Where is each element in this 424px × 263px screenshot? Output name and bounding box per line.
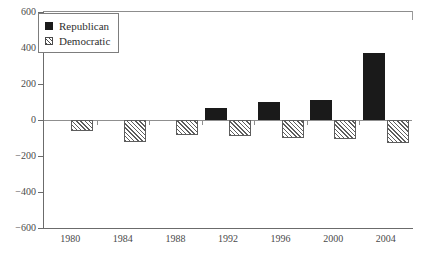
bar-republican [310, 100, 332, 120]
legend-label-republican: Republican [59, 20, 109, 32]
legend-item-democratic: Democratic [45, 33, 110, 48]
x-axis-tick-label: 1980 [45, 233, 95, 244]
zero-line-tick [254, 120, 255, 125]
y-axis-tick [38, 228, 44, 229]
x-axis-tick-label: 2000 [308, 233, 358, 244]
x-axis-tick-label: 1992 [203, 233, 253, 244]
y-axis-tick-label: −200 [2, 151, 36, 161]
legend-item-republican: Republican [45, 18, 110, 33]
y-axis-tick-label: −600 [2, 223, 36, 233]
zero-line-tick [307, 120, 308, 125]
bar-democratic [124, 120, 146, 142]
bar-republican [258, 102, 280, 120]
zero-line-tick [149, 120, 150, 125]
bar-democratic [334, 120, 356, 139]
x-axis-tick-label: 1996 [256, 233, 306, 244]
legend-swatch-republican-icon [45, 22, 53, 30]
zero-line-tick [97, 120, 98, 125]
y-axis-tick-label: −400 [2, 187, 36, 197]
legend-label-democratic: Democratic [59, 35, 110, 47]
x-axis-tick-label: 1984 [98, 233, 148, 244]
bar-democratic [229, 120, 251, 136]
bar-democratic [176, 120, 198, 135]
x-axis-line [43, 228, 413, 229]
bar-democratic [387, 120, 409, 143]
y-axis-tick-label: 600 [2, 7, 36, 17]
zero-baseline [44, 120, 412, 121]
zero-line-tick [202, 120, 203, 125]
y-axis-tick-label: 0 [2, 115, 36, 125]
legend-swatch-democratic-icon [45, 37, 53, 45]
y-axis-tick-label: 200 [2, 79, 36, 89]
x-axis-tick-label: 2004 [361, 233, 411, 244]
chart-figure: 6004002000−200−400−600 19801984198819921… [0, 0, 424, 263]
chart-legend: Republican Democratic [38, 13, 119, 53]
zero-line-tick [359, 120, 360, 125]
bar-republican [363, 53, 385, 121]
bar-democratic [71, 120, 93, 131]
y-axis-tick-label: 400 [2, 43, 36, 53]
bar-democratic [282, 120, 304, 138]
plot-right-border [412, 11, 413, 20]
x-axis-tick-label: 1988 [150, 233, 200, 244]
bar-republican [205, 108, 227, 120]
